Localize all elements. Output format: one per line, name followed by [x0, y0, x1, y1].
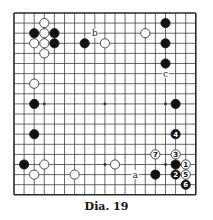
point-marker-a: a [133, 170, 139, 180]
move-number: 1 [183, 161, 188, 169]
star-point [104, 103, 107, 106]
white-stone [70, 170, 79, 179]
white-stone [30, 170, 39, 179]
star-point [164, 163, 167, 166]
black-stone [80, 39, 89, 48]
black-stone [30, 29, 39, 38]
black-stone [161, 39, 170, 48]
white-stone [40, 49, 49, 58]
white-stone [30, 39, 39, 48]
black-stone [161, 59, 170, 68]
star-point [104, 163, 107, 166]
move-number: 6 [183, 181, 188, 189]
diagram-caption: Dia. 19 [0, 200, 213, 213]
black-stone [171, 99, 180, 108]
star-point [164, 103, 167, 106]
black-stone [161, 19, 170, 28]
move-number: 3 [173, 151, 178, 159]
white-stone [110, 160, 119, 169]
move-number: 5 [183, 171, 188, 179]
move-number: 4 [173, 131, 178, 139]
white-stone [141, 29, 150, 38]
black-stone [50, 39, 59, 48]
black-stone [30, 130, 39, 139]
white-stone [30, 79, 39, 88]
point-marker-b: b [92, 28, 98, 38]
white-stone [100, 39, 109, 48]
white-stone [40, 39, 49, 48]
white-stone [40, 160, 49, 169]
go-board: bca 4731256 [0, 0, 213, 200]
star-point [43, 103, 46, 106]
black-stone [50, 29, 59, 38]
white-stone [40, 29, 49, 38]
black-stone [30, 99, 39, 108]
black-stone [171, 160, 180, 169]
black-stone [20, 160, 29, 169]
point-marker-c: c [163, 69, 168, 79]
black-stone [151, 170, 160, 179]
move-number: 7 [153, 151, 158, 159]
move-number: 2 [173, 171, 178, 179]
white-stone [40, 19, 49, 28]
